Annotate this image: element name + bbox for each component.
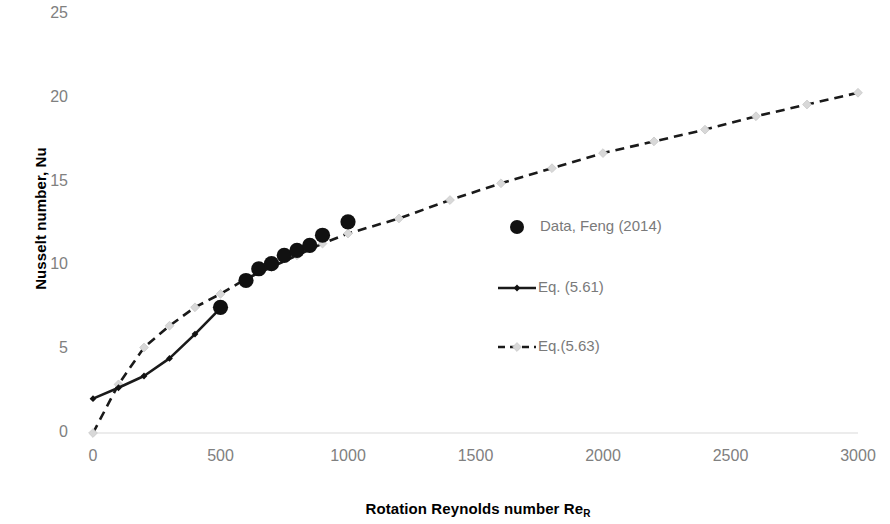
chart-plot-area <box>0 0 890 524</box>
legend-item-label: Eq.(5.63) <box>538 337 600 354</box>
x-axis-title-main: Rotation Reynolds number Re <box>365 500 583 517</box>
x-tick-label: 1500 <box>446 447 506 465</box>
x-tick-label: 3000 <box>828 447 888 465</box>
x-tick-label: 2500 <box>701 447 761 465</box>
y-tick-label: 5 <box>28 339 68 357</box>
x-axis-title: Rotation Reynolds number ReR <box>93 500 863 517</box>
y-tick-label: 15 <box>28 172 68 190</box>
legend-item-label: Eq. (5.61) <box>538 278 604 295</box>
chart-container: Nusselt number, Nu Rotation Reynolds num… <box>0 0 890 524</box>
x-tick-label: 500 <box>191 447 251 465</box>
y-tick-label: 10 <box>28 255 68 273</box>
series-data-points <box>213 214 356 315</box>
x-tick-label: 0 <box>63 447 123 465</box>
y-tick-label: 0 <box>28 423 68 441</box>
series-eq561-line <box>90 305 224 402</box>
series-eq563-line <box>89 88 863 437</box>
x-axis-title-subscript: R <box>583 508 590 519</box>
legend-item-label: Data, Feng (2014) <box>540 217 662 234</box>
x-tick-label: 2000 <box>573 447 633 465</box>
y-axis-title: Nusselt number, Nu <box>32 109 49 329</box>
y-tick-label: 20 <box>28 88 68 106</box>
legend-glyphs <box>498 220 536 351</box>
x-tick-label: 1000 <box>318 447 378 465</box>
y-tick-label: 25 <box>28 4 68 22</box>
